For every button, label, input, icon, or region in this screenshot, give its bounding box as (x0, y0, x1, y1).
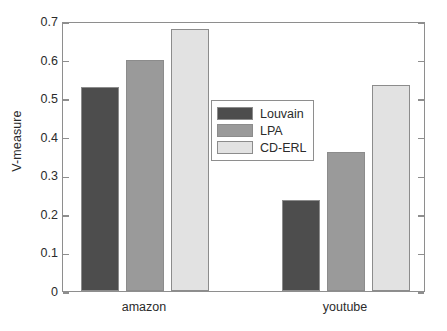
legend-item-cd-erl: CD-ERL (217, 139, 307, 156)
y-axis-tick (63, 292, 69, 293)
y-axis-tick (63, 177, 69, 178)
y-axis-tick (63, 215, 69, 216)
y-axis-tick-right (418, 22, 424, 23)
y-axis-tick-label: 0 (18, 285, 58, 299)
y-axis-tick (63, 254, 69, 255)
legend-item-lpa: LPA (217, 122, 307, 139)
legend-swatch-cd-erl (217, 141, 253, 154)
y-axis-tick-label: 0.3 (18, 169, 58, 183)
legend-label: CD-ERL (260, 141, 307, 155)
y-axis-tick-label: 0.1 (18, 246, 58, 260)
legend-label: Louvain (260, 107, 304, 121)
chart-legend: LouvainLPACD-ERL (211, 100, 314, 161)
bar-youtube-cd-erl (372, 85, 410, 291)
legend-item-louvain: Louvain (217, 105, 307, 122)
legend-swatch-louvain (217, 107, 253, 120)
y-axis-tick (63, 22, 69, 23)
y-axis-tick (63, 138, 69, 139)
y-axis-tick-label: 0.4 (18, 131, 58, 145)
y-axis-tick-right (418, 215, 424, 216)
bar-youtube-lpa (327, 152, 365, 291)
x-axis-label-youtube: youtube (323, 300, 367, 314)
y-axis-tick-right (418, 292, 424, 293)
y-axis-tick (63, 99, 69, 100)
y-axis-tick-label: 0.5 (18, 92, 58, 106)
y-axis-tick (63, 61, 69, 62)
chart-figure: V-measure 00.10.20.30.40.50.60.7 amazony… (0, 0, 447, 331)
y-axis-tick-right (418, 254, 424, 255)
bar-amazon-louvain (81, 87, 119, 291)
x-axis-label-amazon: amazon (122, 300, 166, 314)
bar-youtube-louvain (282, 200, 320, 291)
y-axis-tick-right (418, 99, 424, 100)
legend-swatch-lpa (217, 124, 253, 137)
y-axis-tick-right (418, 177, 424, 178)
y-axis-tick-label: 0.2 (18, 208, 58, 222)
y-axis-tick-right (418, 138, 424, 139)
legend-label: LPA (260, 124, 283, 138)
bar-amazon-lpa (126, 60, 164, 291)
y-axis-tick-label: 0.6 (18, 54, 58, 68)
bar-amazon-cd-erl (171, 29, 209, 291)
y-axis-tick-right (418, 61, 424, 62)
y-axis-tick-label: 0.7 (18, 15, 58, 29)
